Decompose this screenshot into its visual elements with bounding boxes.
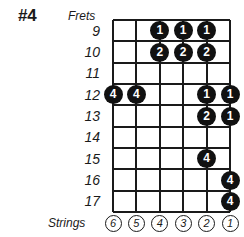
string-number-3: 3 [175, 215, 192, 232]
finger-dot-fret12-string6: 4 [104, 85, 123, 104]
finger-dot-fret10-string4: 2 [150, 43, 169, 62]
fret-number-14: 14 [62, 130, 100, 144]
finger-dot-fret9-string3: 1 [174, 21, 193, 40]
string-number-5: 5 [128, 215, 145, 232]
finger-dot-fret12-string5: 4 [127, 85, 146, 104]
finger-dot-fret13-string1: 1 [221, 107, 240, 126]
fret-number-11: 11 [62, 66, 100, 80]
string-number-1: 1 [222, 215, 239, 232]
string-number-4: 4 [151, 215, 168, 232]
diagram-number-label: #4 [18, 7, 36, 25]
fret-number-10: 10 [62, 45, 100, 59]
string-number-2: 2 [198, 215, 215, 232]
fret-number-12: 12 [62, 88, 100, 102]
fret-number-17: 17 [62, 194, 100, 208]
fret-number-16: 16 [62, 173, 100, 187]
fretboard-grid: 111222441121444 [113, 20, 230, 212]
fret-number-13: 13 [62, 109, 100, 123]
strings-axis-label: Strings [48, 216, 85, 230]
finger-dot-fret12-string1: 1 [221, 85, 240, 104]
fret-number-9: 9 [62, 24, 100, 38]
string-number-6: 6 [105, 215, 122, 232]
fret-number-15: 15 [62, 152, 100, 166]
guitar-scale-diagram: #4 Frets 91011121314151617 1112224411214… [0, 0, 244, 237]
finger-dot-fret17-string1: 4 [221, 192, 240, 211]
finger-dot-fret10-string3: 2 [174, 43, 193, 62]
finger-dot-fret13-string2: 2 [197, 107, 216, 126]
string-number-row: 654321 [113, 215, 230, 235]
fret-number-column: 91011121314151617 [62, 20, 106, 212]
finger-dot-fret10-string2: 2 [197, 43, 216, 62]
finger-dot-fret16-string1: 4 [221, 171, 240, 190]
